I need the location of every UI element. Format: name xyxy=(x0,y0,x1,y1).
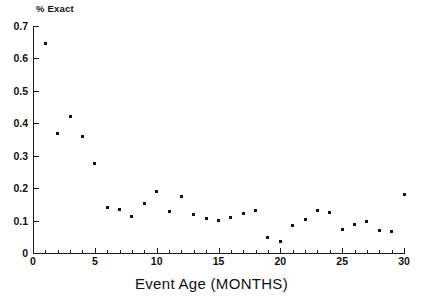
x-tick-label: 25 xyxy=(327,256,357,267)
data-point xyxy=(229,216,232,219)
data-point xyxy=(217,219,220,222)
data-point xyxy=(390,230,393,233)
x-tick-label: 5 xyxy=(80,256,110,267)
data-point xyxy=(106,206,109,209)
y-tick-label: 0.1 xyxy=(0,216,28,227)
data-point xyxy=(316,209,319,212)
x-tick-label: 10 xyxy=(142,256,172,267)
data-point xyxy=(93,162,96,165)
data-point xyxy=(192,213,195,216)
y-tick-label: 0.2 xyxy=(0,183,28,194)
data-point xyxy=(242,212,245,215)
x-axis-title: Event Age (MONTHS) xyxy=(0,275,423,292)
data-point xyxy=(291,224,294,227)
data-point xyxy=(205,217,208,220)
data-point xyxy=(143,202,146,205)
data-point xyxy=(304,218,307,221)
x-tick-label: 30 xyxy=(389,256,419,267)
data-point xyxy=(279,240,282,243)
data-point xyxy=(118,208,121,211)
y-tick-label: 0.3 xyxy=(0,151,28,162)
y-tick-label: 0.5 xyxy=(0,86,28,97)
x-tick-label: 0 xyxy=(18,256,48,267)
data-point xyxy=(378,229,381,232)
y-tick-label: 0.4 xyxy=(0,118,28,129)
data-point xyxy=(69,115,72,118)
data-point xyxy=(353,223,356,226)
data-point xyxy=(56,132,59,135)
data-point xyxy=(365,220,368,223)
x-tick-label: 20 xyxy=(265,256,295,267)
data-point xyxy=(44,42,47,45)
data-point xyxy=(81,135,84,138)
data-point xyxy=(266,236,269,239)
x-tick-mark-major xyxy=(404,248,405,254)
data-point xyxy=(155,190,158,193)
y-tick-label: 0.7 xyxy=(0,21,28,32)
data-point xyxy=(180,195,183,198)
data-point xyxy=(254,209,257,212)
y-tick-label: 0.6 xyxy=(0,53,28,64)
data-point xyxy=(130,215,133,218)
data-point xyxy=(328,211,331,214)
data-point xyxy=(168,210,171,213)
y-axis-title: % Exact xyxy=(36,3,74,14)
data-point xyxy=(403,193,406,196)
scatter-chart-figure: % Exact 00.10.20.30.40.50.60.7 051015202… xyxy=(0,0,423,302)
data-point xyxy=(341,228,344,231)
x-tick-label: 15 xyxy=(204,256,234,267)
